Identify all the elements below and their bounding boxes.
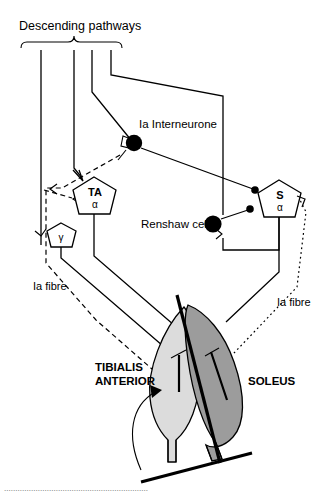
ta-alpha-greek: α	[92, 199, 98, 210]
ia-interneurone-label: Ia Interneurone	[139, 118, 217, 130]
renshaw-recurrent-collateral	[223, 215, 279, 250]
s-alpha-axon	[226, 217, 279, 322]
ta-alpha-label: TA	[88, 186, 102, 198]
ia-interneurone-soma	[126, 135, 142, 151]
ia-fibre-left-label: Ia fibre	[33, 280, 67, 292]
gamma-greek: γ	[59, 232, 64, 243]
foot-baseline	[141, 453, 252, 482]
renshaw-cell-label: Renshaw cell	[141, 218, 209, 230]
descending-fibre-2	[74, 50, 82, 178]
synaptic-boutons	[246, 186, 259, 213]
soleus-label: SOLEUS	[248, 375, 296, 387]
s-alpha-label: S	[276, 189, 283, 201]
figure-container: TA α γ	[0, 0, 335, 496]
ia-interneurone-group	[118, 135, 253, 189]
cut-off-caption-strip: ........................................…	[0, 486, 335, 496]
ia-fibre-to-ta-terminal	[73, 170, 83, 181]
synapse-renshaw-to-s	[246, 205, 254, 213]
ia-fibre-ta-branch	[44, 190, 72, 198]
tibialis-anterior-label-line1: TIBIALIS	[95, 361, 143, 373]
ia-fibre-right-label: Ia fibre	[277, 296, 311, 308]
neural-circuit-diagram: TA α γ	[0, 0, 335, 496]
descending-pathways-label: Descending pathways	[19, 19, 141, 33]
cut-off-caption-text: ........................................…	[4, 486, 148, 493]
descending-pathways-brace	[21, 36, 122, 48]
s-alpha-greek: α	[277, 202, 283, 213]
tibialis-anterior-label-line2: ANTERIOR	[95, 375, 156, 387]
descending-fibre-4	[111, 50, 223, 215]
ia-interneurone-axon	[141, 148, 253, 189]
renshaw-axon-to-s	[221, 210, 248, 219]
